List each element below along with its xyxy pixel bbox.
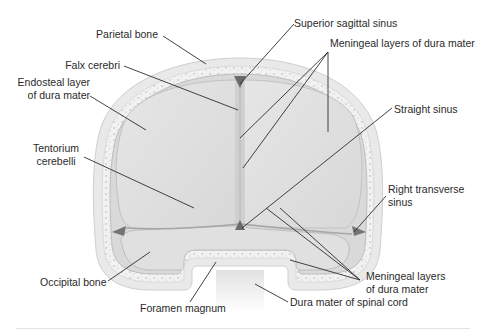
label-right-transverse-line1: Right transverse xyxy=(388,183,464,196)
label-tentorium-line1: Tentorium xyxy=(26,142,86,155)
bottom-divider xyxy=(16,328,470,329)
label-parietal-bone: Parietal bone xyxy=(88,28,158,41)
label-occipital-bone: Occipital bone xyxy=(40,276,107,289)
dura-mater-diagram: Parietal bone Falx cerebri Endosteal lay… xyxy=(0,0,484,336)
label-falx-cerebri: Falx cerebri xyxy=(40,59,120,72)
label-endosteal-line2: of dura mater xyxy=(6,89,90,102)
label-tentorium-line2: cerebelli xyxy=(26,155,86,168)
label-endosteal-layer: Endosteal layer of dura mater xyxy=(6,76,90,101)
label-foramen-magnum: Foramen magnum xyxy=(140,302,226,315)
label-straight-sinus: Straight sinus xyxy=(394,103,458,116)
label-meningeal-layers-bottom: Meningeal layers of dura mater xyxy=(366,270,445,295)
label-superior-sagittal-sinus: Superior sagittal sinus xyxy=(294,17,397,30)
label-tentorium-cerebelli: Tentorium cerebelli xyxy=(26,142,86,167)
label-right-transverse-sinus: Right transverse sinus xyxy=(388,183,464,208)
label-meningeal-bottom-line2: of dura mater xyxy=(366,283,445,296)
label-dura-spinal-cord: Dura mater of spinal cord xyxy=(290,296,408,309)
label-right-transverse-line2: sinus xyxy=(388,196,464,209)
label-meningeal-bottom-line1: Meningeal layers xyxy=(366,270,445,283)
label-endosteal-line1: Endosteal layer xyxy=(6,76,90,89)
label-meningeal-layers-top: Meningeal layers of dura mater xyxy=(330,37,475,50)
